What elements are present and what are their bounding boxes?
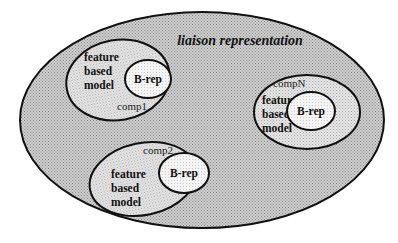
model-label-line: based [84,65,113,77]
svg-text:B-rep: B-rep [170,167,198,180]
model-label-line: feature [111,168,146,180]
model-label-line: based [111,182,140,194]
diagram-canvas: liaison representation feature based mod… [0,0,398,243]
model-label-line: feature [84,51,119,63]
brep-node: B-rep [287,92,335,130]
svg-text:B-rep: B-rep [297,105,325,118]
model-label-line: model [262,122,292,134]
brep-node: B-rep [159,153,209,193]
model-label-line: model [111,196,141,208]
liaison-title: liaison representation [177,33,303,48]
component-compN: compN feature based model B-rep [254,75,360,149]
component-name: comp1 [117,100,147,112]
brep-node: B-rep [125,60,171,98]
component-name: comp2 [143,144,173,156]
component-name: compN [273,77,305,89]
svg-text:B-rep: B-rep [134,73,162,86]
model-label-line: model [84,79,114,91]
